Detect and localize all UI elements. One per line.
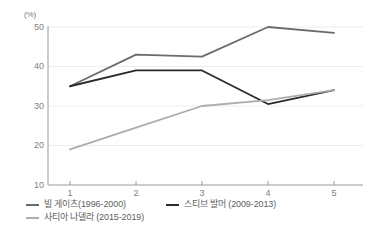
legend-label-steve-ballmer: 스티브 발머 (2009-2013)	[184, 198, 276, 211]
series-line-steve-ballmer	[70, 70, 334, 104]
x-axis-ticks	[70, 181, 334, 185]
legend-label-bill-gates: 빌 게이츠(1996-2000)	[44, 198, 126, 211]
legend-swatch-steve-ballmer	[166, 204, 179, 206]
line-chart: (%) 50 40 30 20 10 1 2 3 4 5	[0, 0, 382, 247]
legend-label-satya-nadella: 사티아 나델라 (2015-2019)	[44, 211, 144, 224]
legend-swatch-bill-gates	[26, 204, 39, 206]
chart-legend: 빌 게이츠(1996-2000) 스티브 발머 (2009-2013) 사티아 …	[26, 198, 378, 224]
legend-item-bill-gates[interactable]: 빌 게이츠(1996-2000)	[26, 198, 126, 211]
legend-swatch-satya-nadella	[26, 217, 39, 219]
series-lines	[70, 27, 334, 149]
legend-item-satya-nadella[interactable]: 사티아 나델라 (2015-2019)	[26, 211, 144, 224]
grid-lines	[48, 27, 363, 146]
legend-item-steve-ballmer[interactable]: 스티브 발머 (2009-2013)	[166, 198, 276, 211]
